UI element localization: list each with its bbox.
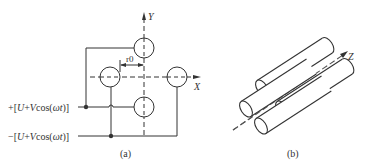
r0-label: r0 xyxy=(126,54,134,64)
minus-voltage-label: −[U+Vcos(ωt)] xyxy=(8,131,69,143)
junction-dot-minus xyxy=(109,134,113,138)
wire-right xyxy=(78,87,177,136)
z-axis-label: Z xyxy=(348,51,354,62)
junction-dot-plus xyxy=(84,105,88,109)
quadrupole-diagram: Y X r0 +[U+Vcos(ωt)] −[U+Vcos(ωt)] (a) xyxy=(0,0,365,166)
panel-a xyxy=(78,12,201,138)
caption-b: (b) xyxy=(287,148,299,160)
y-axis-arrow-icon xyxy=(142,12,146,20)
y-axis-label: Y xyxy=(148,11,155,22)
x-axis-label: X xyxy=(193,81,201,92)
panel-b xyxy=(233,35,357,136)
plus-voltage-label: +[U+Vcos(ωt)] xyxy=(8,102,69,114)
caption-a: (a) xyxy=(120,148,131,160)
x-axis-arrow-icon xyxy=(193,75,201,79)
z-axis-arrow-icon xyxy=(340,51,348,58)
